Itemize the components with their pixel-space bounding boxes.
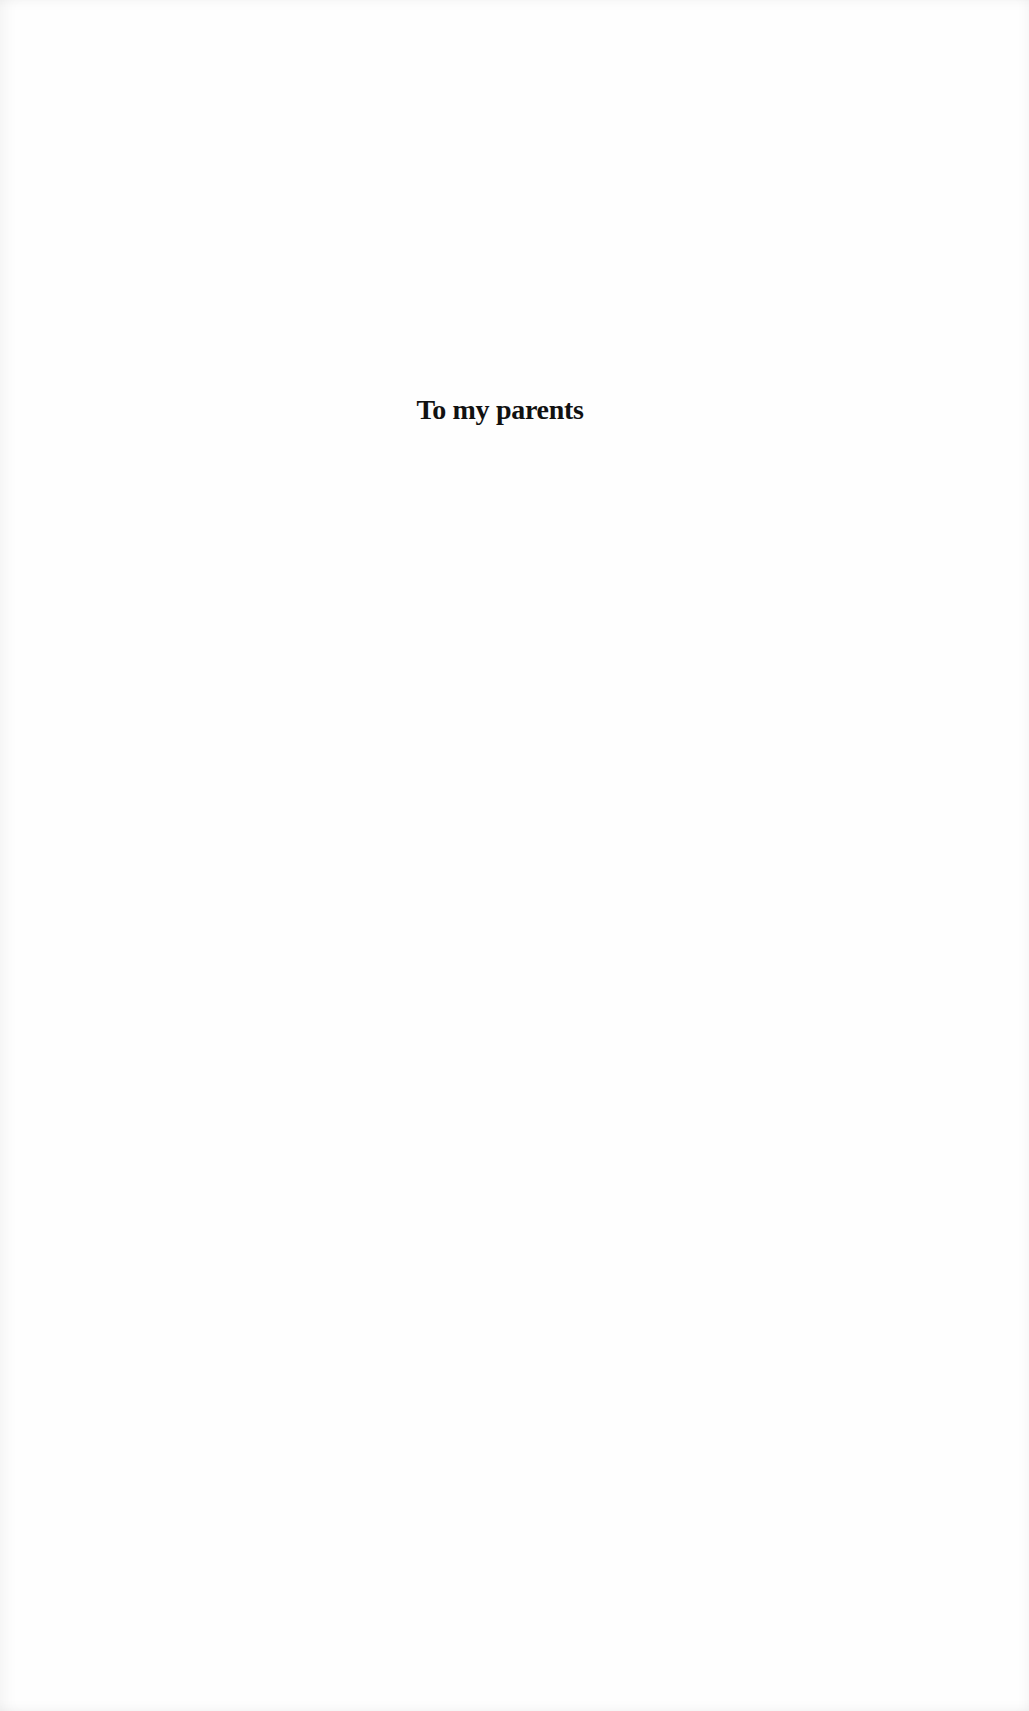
book-page: To my parents bbox=[0, 0, 1029, 1711]
dedication-text: To my parents bbox=[0, 392, 1000, 428]
